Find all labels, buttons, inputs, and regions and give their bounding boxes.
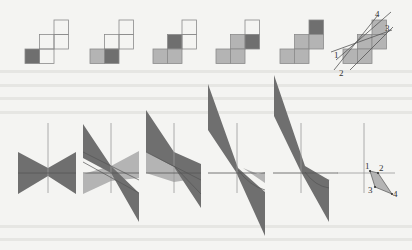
grid-cell [295,49,310,64]
grid-cell [40,35,55,50]
grid-panel-2 [90,20,134,64]
plot-3 [146,110,201,208]
grid-cell [105,49,120,64]
grid-panels-row [25,20,387,64]
grid-cell [153,49,168,64]
vertex-label-3: 3 [368,185,373,195]
grid-cell [231,49,246,64]
plot-1 [18,123,76,194]
grid-cell [245,35,260,50]
scan-text-residue [0,70,412,241]
grid-cell [182,35,197,50]
grid-panel-3 [153,20,197,64]
grid-panel-6 [343,20,387,64]
figure: 1 2 3 4 [0,0,412,250]
line-label-2: 2 [339,68,344,78]
grid-panel-5 [280,20,324,64]
grid-cell [168,49,183,64]
grid-cell [182,20,197,35]
grid-cell [245,20,260,35]
grid-cell [54,35,69,50]
grid-cell [119,35,134,50]
grid-cell [295,35,310,50]
vertex-label-2: 2 [379,163,384,173]
grid-cell [309,20,324,35]
grid-cell [280,49,295,64]
grid-cell [309,35,324,50]
grid-panel-4 [216,20,260,64]
grid-cell [119,20,134,35]
grid-cell [231,35,246,50]
grid-cell [358,49,373,64]
grid-cell [216,49,231,64]
grid-cell [25,49,40,64]
plot-2 [83,123,139,222]
plot-4 [208,84,265,236]
line-label-4: 4 [375,9,380,19]
grid-cell [90,49,105,64]
grid-cell [40,49,55,64]
line-label-1: 1 [334,50,339,60]
vertex-label-1: 1 [365,161,370,171]
grid-panel-1 [25,20,69,64]
plot-6 [337,123,395,195]
grid-cell [54,20,69,35]
grid-cell [105,35,120,50]
grid-cell [168,35,183,50]
vertex-label-4: 4 [393,189,398,199]
line-label-3: 3 [385,23,390,33]
